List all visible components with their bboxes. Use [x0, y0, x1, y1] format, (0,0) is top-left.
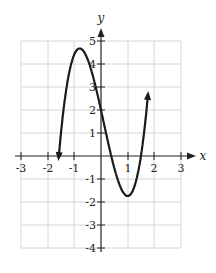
x-tick-label: 3: [178, 162, 185, 175]
x-tick-label: -3: [16, 162, 27, 175]
y-tick-label: -1: [85, 173, 96, 186]
x-tick-label: -1: [69, 162, 80, 175]
y-tick-label: -4: [85, 242, 96, 255]
y-tick-label: -2: [85, 196, 96, 209]
x-tick-label: 1: [125, 162, 132, 175]
y-tick-label: 5: [89, 35, 96, 48]
y-tick-label: -3: [85, 219, 96, 232]
y-tick-label: 2: [89, 104, 96, 117]
curve-arrow-up-icon: [144, 91, 151, 100]
x-tick-label: 2: [151, 162, 158, 175]
y-axis-label: y: [97, 11, 105, 25]
y-tick-label: 1: [89, 127, 96, 140]
x-axis-label: x: [200, 149, 207, 163]
x-axis-arrow-icon: [187, 153, 196, 160]
y-axis: 5 4 3 2 1 -1 -2 -3 -4 y: [85, 11, 105, 255]
y-axis-arrow-icon: [98, 28, 105, 37]
x-tick-label: -2: [43, 162, 54, 175]
graph-canvas: -3 -2 -1 1 2 3 x 5 4 3 2 1 -1 -2 -3 -4 y: [0, 0, 216, 273]
